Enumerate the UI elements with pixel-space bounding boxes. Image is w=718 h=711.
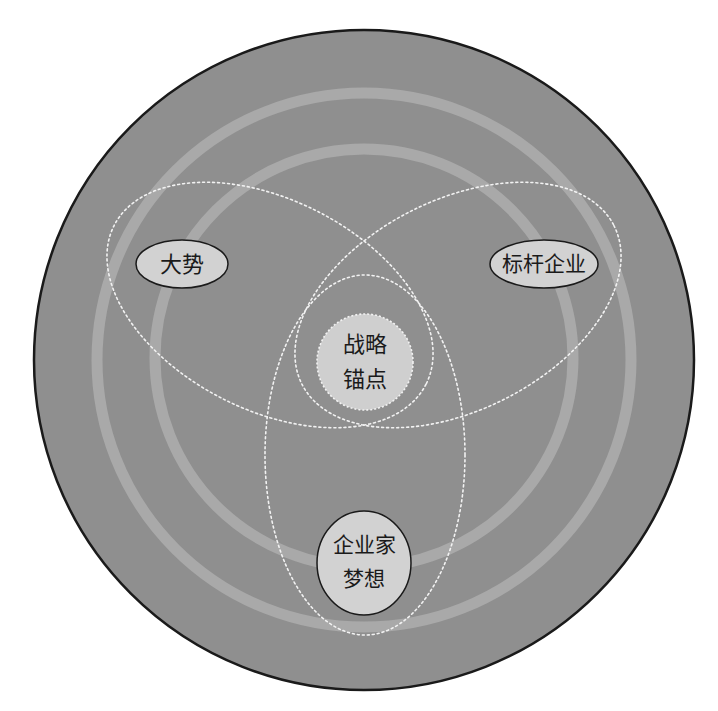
benchmark-node-label: 标杆企业 — [502, 252, 586, 276]
center-node-label-line1: 战略 — [343, 332, 387, 357]
dream-node-ellipse — [317, 511, 411, 615]
center-node-label-line2: 锚点 — [343, 367, 387, 392]
strategy-anchor-diagram: 战略 锚点 大势 标杆企业 企业家 梦想 — [0, 0, 718, 711]
trend-node: 大势 — [136, 240, 228, 288]
trend-node-label: 大势 — [160, 252, 204, 277]
dream-node: 企业家 梦想 — [317, 511, 411, 615]
dream-node-label-line2: 梦想 — [343, 567, 385, 591]
center-node: 战略 锚点 — [317, 314, 413, 410]
benchmark-node: 标杆企业 — [490, 240, 598, 288]
center-node-circle — [317, 314, 413, 410]
dream-node-label-line1: 企业家 — [333, 533, 396, 557]
